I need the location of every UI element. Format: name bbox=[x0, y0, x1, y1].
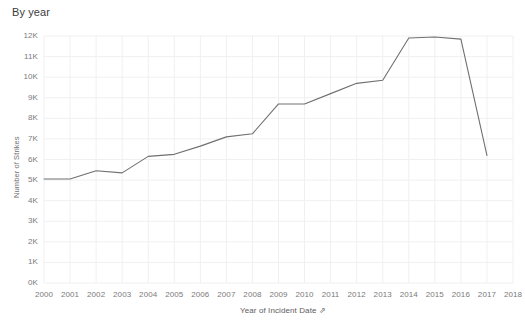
y-tick-label: 3K bbox=[14, 216, 38, 225]
gridlines bbox=[44, 36, 513, 283]
y-tick-label: 12K bbox=[14, 31, 38, 40]
y-tick-label: 10K bbox=[14, 72, 38, 81]
x-tick-label: 2018 bbox=[496, 290, 525, 299]
y-tick-label: 0K bbox=[14, 278, 38, 287]
sort-arrow-icon[interactable]: ⇗ bbox=[317, 306, 326, 315]
y-tick-label: 11K bbox=[14, 52, 38, 61]
y-axis-label: Number of Strikes bbox=[12, 136, 21, 198]
chart-container: By year 0K1K2K3K4K5K6K7K8K9K10K11K12K 20… bbox=[0, 0, 525, 323]
y-tick-label: 9K bbox=[14, 93, 38, 102]
line-chart-plot bbox=[0, 0, 525, 323]
x-axis-label-text: Year of Incident Date bbox=[240, 306, 317, 315]
strikes-line-series bbox=[44, 37, 487, 179]
y-tick-label: 8K bbox=[14, 113, 38, 122]
x-axis-label[interactable]: Year of Incident Date⇗ bbox=[240, 306, 326, 315]
y-tick-label: 2K bbox=[14, 237, 38, 246]
y-tick-label: 1K bbox=[14, 257, 38, 266]
